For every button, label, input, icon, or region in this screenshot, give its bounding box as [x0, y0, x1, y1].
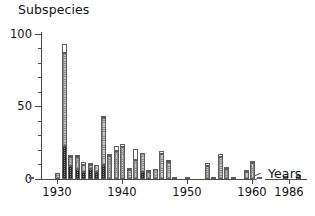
- bar: [257, 178, 262, 179]
- bar-segment-mid: [250, 163, 255, 179]
- bar-segment-light: [107, 154, 112, 156]
- bar-segment-mid: [81, 165, 86, 172]
- y-tick-label: 50: [2, 99, 32, 113]
- bar-segment-dark: [94, 172, 99, 179]
- bar: [127, 169, 132, 179]
- x-tick-label: 1940: [102, 185, 142, 199]
- bar-segment-light: [244, 170, 249, 172]
- bar: [166, 160, 171, 179]
- bar-segment-light: [127, 168, 132, 170]
- bar: [94, 165, 99, 180]
- bar-segment-light: [224, 167, 229, 169]
- bar-segment-mid: [133, 160, 138, 179]
- bar: [120, 144, 125, 179]
- bar: [114, 146, 119, 179]
- bar-segment-mid: [94, 165, 99, 172]
- bar-segment-mid: [29, 177, 34, 179]
- bar-segment-light: [120, 144, 125, 147]
- bar-segment-mid: [211, 177, 216, 179]
- bar-segment-light: [205, 163, 210, 166]
- bar-segment-mid: [55, 173, 60, 179]
- x-axis-label: Years: [268, 166, 301, 181]
- bar: [62, 44, 67, 179]
- x-tick: [57, 179, 58, 184]
- bar: [185, 178, 190, 179]
- bar: [250, 162, 255, 179]
- bar: [211, 178, 216, 179]
- y-tick-label: 0: [2, 172, 32, 186]
- bar: [153, 169, 158, 179]
- bar: [146, 170, 151, 179]
- bar-segment-dark: [81, 172, 86, 179]
- bar: [29, 178, 34, 179]
- bar-segment-light: [81, 162, 86, 165]
- bar-segment-light: [68, 155, 73, 157]
- bar-segment-light: [133, 149, 138, 161]
- bar-segment-mid: [146, 172, 151, 179]
- bar: [107, 154, 112, 179]
- bar-segment-mid: [244, 172, 249, 179]
- bar: [244, 170, 249, 179]
- bar: [172, 178, 177, 179]
- bar: [81, 162, 86, 179]
- bar-segment-mid: [159, 154, 164, 179]
- bar: [224, 167, 229, 179]
- chart-title: Subspecies: [18, 2, 89, 17]
- bar-segment-light: [114, 146, 119, 152]
- bar: [205, 163, 210, 179]
- bar-segment-mid: [153, 169, 158, 179]
- x-tick: [122, 179, 123, 184]
- x-tick-label: 1986: [269, 185, 309, 199]
- bar-segment-mid: [120, 147, 125, 179]
- bar-segment-dark: [101, 165, 106, 180]
- bar-segment-mid: [218, 157, 223, 179]
- bar-segment-light: [218, 154, 223, 157]
- x-tick: [187, 179, 188, 184]
- bar-segment-mid: [88, 165, 93, 169]
- bar-segment-light: [159, 151, 164, 154]
- bar: [75, 156, 80, 179]
- bar-segment-mid: [166, 162, 171, 179]
- bar: [88, 163, 93, 179]
- bar-segment-dark: [140, 172, 145, 179]
- bar-segment-mid: [107, 156, 112, 179]
- bar-segment-mid: [62, 53, 67, 146]
- bar-segment-mid: [185, 177, 190, 179]
- bar-segment-mid: [101, 118, 106, 164]
- bar-segment-dark: [231, 177, 236, 179]
- bar-segment-mid: [172, 177, 177, 179]
- bar-segment-dark: [75, 169, 80, 179]
- chart-root: Subspecies 050100 19301940195019601986 Y…: [0, 0, 315, 216]
- bar-segment-mid: [114, 151, 119, 179]
- bar: [55, 173, 60, 179]
- bar-segment-light: [101, 116, 106, 118]
- bar-segment-mid: [257, 177, 262, 179]
- bar-segment-mid: [127, 170, 132, 179]
- bar: [101, 117, 106, 179]
- bar-segment-mid: [140, 153, 145, 172]
- bar-segment-mid: [75, 157, 80, 169]
- bar-segment-mid: [68, 157, 73, 166]
- bar-segment-dark: [68, 166, 73, 179]
- bar-segment-light: [88, 163, 93, 165]
- bar-segment-dark: [88, 169, 93, 179]
- x-tick-label: 1950: [167, 185, 207, 199]
- bar-segment-mid: [224, 169, 229, 179]
- bar: [218, 154, 223, 179]
- bar: [133, 149, 138, 179]
- bar: [140, 153, 145, 179]
- bar-segment-light: [166, 160, 171, 162]
- x-tick: [252, 179, 253, 184]
- bar-segment-light: [146, 170, 151, 172]
- bar-segment-light: [62, 44, 67, 53]
- x-tick-label: 1960: [232, 185, 272, 199]
- bar: [159, 151, 164, 179]
- bar-segment-light: [75, 155, 80, 157]
- bar-segment-dark: [62, 146, 67, 179]
- x-tick-label: 1930: [37, 185, 77, 199]
- y-tick-label: 100: [2, 27, 32, 41]
- bar-segment-mid: [205, 166, 210, 179]
- bar: [231, 178, 236, 179]
- plot-area: [41, 32, 307, 179]
- bar: [68, 156, 73, 179]
